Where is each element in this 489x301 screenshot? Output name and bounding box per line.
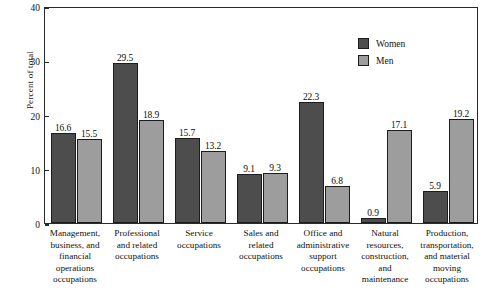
bar-women: 22.3 — [299, 102, 324, 223]
y-axis-tick-20: 20 — [31, 112, 46, 122]
x-axis-label-line: transportation, — [412, 240, 482, 252]
x-axis-label-line: occupations — [102, 251, 172, 263]
bar-men: 15.5 — [77, 139, 102, 223]
bar-value-label: 22.3 — [303, 92, 319, 102]
y-axis-tick-30: 30 — [31, 57, 46, 67]
bar-value-label: 6.8 — [331, 176, 343, 186]
x-axis-label-line: Production, — [412, 228, 482, 240]
x-axis-label-line: maintenance — [350, 274, 420, 286]
x-axis-label-line: financial — [40, 251, 110, 263]
bar-women: 15.7 — [175, 138, 200, 223]
x-axis-label-line: construction, — [350, 251, 420, 263]
x-axis-label-line: business, and — [40, 240, 110, 252]
y-axis-tick-10: 10 — [31, 166, 46, 176]
bar-men: 9.3 — [263, 173, 288, 223]
bar-group: 15.713.2 — [169, 8, 231, 223]
bar-group: 22.36.8 — [293, 8, 355, 223]
bar-women: 29.5 — [113, 63, 138, 223]
y-axis-tick-40: 40 — [31, 3, 46, 13]
bar-value-label: 5.9 — [429, 181, 441, 191]
bar-group: 5.919.2 — [417, 8, 479, 223]
x-axis-label-line: Management, — [40, 228, 110, 240]
bar-value-label: 13.2 — [205, 141, 221, 151]
x-axis-label-line: and — [350, 263, 420, 275]
bar-value-label: 9.3 — [269, 163, 281, 173]
x-axis-label-line: Office and — [288, 228, 358, 240]
bar-women: 9.1 — [237, 174, 262, 223]
bar-value-label: 15.7 — [179, 128, 195, 138]
bar-women: 5.9 — [423, 191, 448, 223]
x-axis-label-line: operations — [40, 263, 110, 275]
bar-men: 17.1 — [387, 130, 412, 223]
bar-men: 13.2 — [201, 151, 226, 223]
x-axis-label: Naturalresources,construction,andmainten… — [350, 228, 420, 286]
bar-group: 16.615.5 — [45, 8, 107, 223]
x-axis-label: Management,business, andfinancialoperati… — [40, 228, 110, 286]
bar-value-label: 19.2 — [453, 109, 469, 119]
bar-men: 6.8 — [325, 186, 350, 223]
x-axis-label-line: Sales and — [226, 228, 296, 240]
x-axis-label-line: occupations — [164, 240, 234, 252]
legend-item-men: Men — [358, 53, 405, 68]
x-axis-label-line: administrative — [288, 240, 358, 252]
bar-value-label: 18.9 — [143, 110, 159, 120]
bar-men: 19.2 — [449, 119, 474, 223]
legend-label: Men — [376, 56, 393, 66]
chart-legend: WomenMen — [358, 36, 405, 70]
bar-women: 16.6 — [51, 133, 76, 223]
x-axis-label-line: support — [288, 251, 358, 263]
bar-women: 0.9 — [361, 218, 386, 223]
x-axis-label-line: occupations — [40, 274, 110, 286]
bars-layer: 16.615.529.518.915.713.29.19.322.36.80.9… — [45, 8, 477, 223]
x-axis-label-line: occupations — [412, 274, 482, 286]
legend-swatch-women — [358, 38, 369, 49]
bar-value-label: 9.1 — [243, 164, 255, 174]
bar-chart: Percent of total 403020100 16.615.529.51… — [0, 0, 489, 301]
legend-label: Women — [376, 39, 405, 49]
x-axis-labels: Management,business, andfinancialoperati… — [44, 228, 478, 301]
bar-value-label: 15.5 — [81, 129, 97, 139]
x-axis-label-line: Service — [164, 228, 234, 240]
x-axis-label-line: related — [226, 240, 296, 252]
x-axis-label-line: moving — [412, 263, 482, 275]
bar-value-label: 17.1 — [391, 120, 407, 130]
bar-men: 18.9 — [139, 120, 164, 223]
x-axis-label-line: occupations — [288, 263, 358, 275]
y-tick-mark — [45, 224, 49, 225]
x-axis-label: Serviceoccupations — [164, 228, 234, 251]
x-axis-label-line: Professional — [102, 228, 172, 240]
legend-item-women: Women — [358, 36, 405, 51]
bar-value-label: 29.5 — [117, 53, 133, 63]
bar-group: 29.518.9 — [107, 8, 169, 223]
bar-value-label: 0.9 — [367, 208, 379, 218]
bar-group: 9.19.3 — [231, 8, 293, 223]
bar-value-label: 16.6 — [55, 123, 71, 133]
x-axis-label-line: Natural — [350, 228, 420, 240]
x-axis-label-line: and related — [102, 240, 172, 252]
x-axis-label-line: resources, — [350, 240, 420, 252]
x-axis-label: Sales andrelatedoccupations — [226, 228, 296, 263]
x-axis-label: Production,transportation,and materialmo… — [412, 228, 482, 286]
x-axis-label: Office andadministrativesupportoccupatio… — [288, 228, 358, 274]
x-axis-label: Professionaland relatedoccupations — [102, 228, 172, 263]
x-axis-label-line: occupations — [226, 251, 296, 263]
legend-swatch-men — [358, 55, 369, 66]
x-axis-label-line: and material — [412, 251, 482, 263]
y-axis-title: Percent of total — [25, 20, 35, 140]
plot-area: 403020100 16.615.529.518.915.713.29.19.3… — [44, 7, 478, 224]
